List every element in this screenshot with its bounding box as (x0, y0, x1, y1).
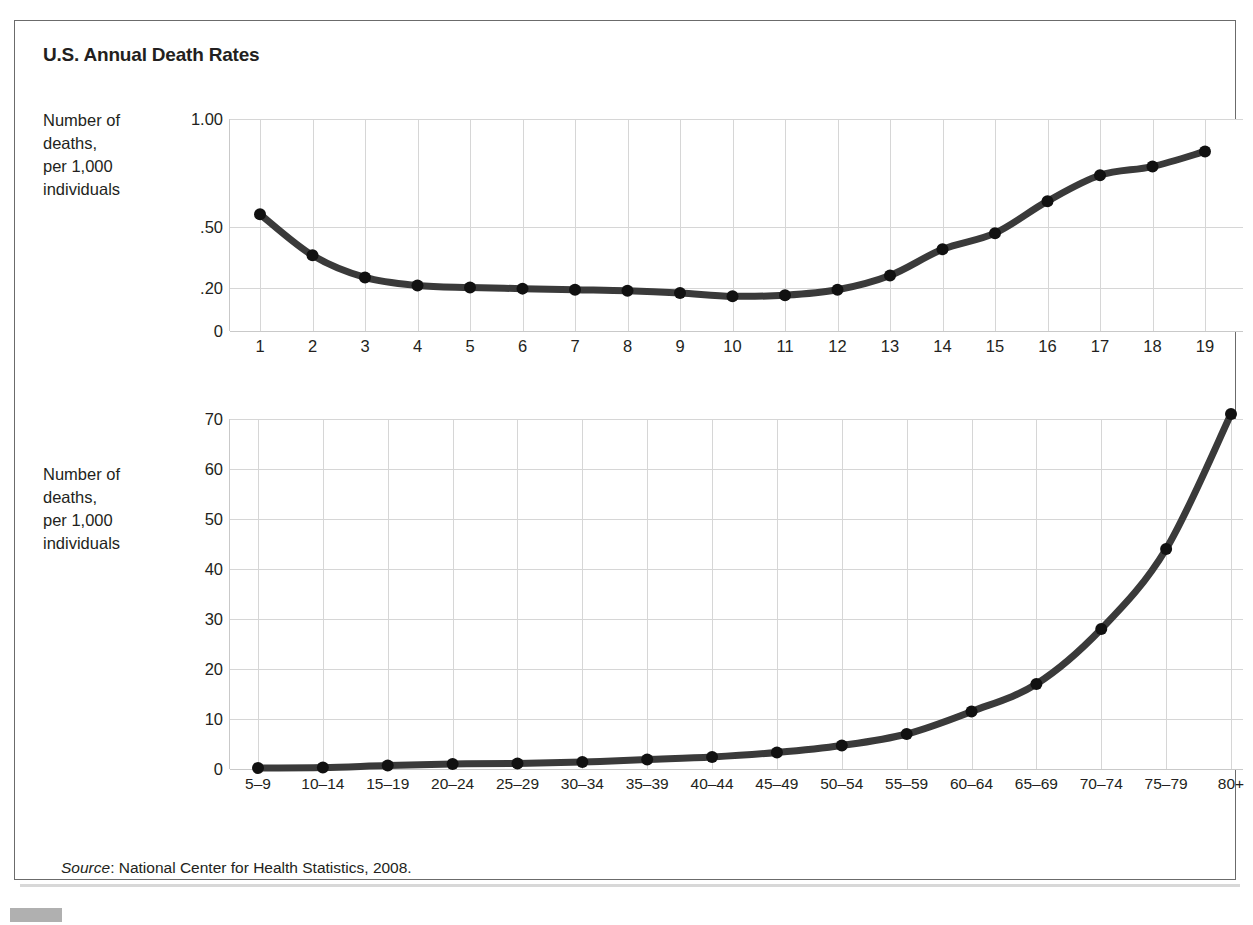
y-axis-tick-label: 60 (205, 460, 223, 479)
data-point (359, 271, 371, 283)
data-point (511, 758, 523, 770)
y-axis-tick-label: 30 (205, 610, 223, 629)
x-axis-tick-label: 8 (623, 337, 632, 356)
x-axis-tick-label: 65–69 (1015, 775, 1058, 793)
data-point (1095, 623, 1107, 635)
x-axis-tick-label: 17 (1091, 337, 1109, 356)
x-axis-tick-label: 20–24 (431, 775, 474, 793)
page-title: U.S. Annual Death Rates (43, 44, 259, 66)
x-axis-tick-label: 6 (518, 337, 527, 356)
x-axis-tick-label: 1 (255, 337, 264, 356)
source-label: Source (61, 859, 110, 876)
data-point (779, 289, 791, 301)
x-axis-tick-label: 4 (413, 337, 422, 356)
data-point (569, 284, 581, 296)
data-point (317, 762, 329, 774)
data-line (258, 414, 1231, 768)
x-axis-tick-label: 30–34 (561, 775, 604, 793)
x-axis-tick-label: 40–44 (691, 775, 734, 793)
page-corner-marker (10, 908, 62, 922)
x-axis-tick-label: 50–54 (820, 775, 863, 793)
data-point (1030, 678, 1042, 690)
y-axis-tick-label: 1.00 (191, 110, 223, 129)
y-axis-tick-label: 10 (205, 710, 223, 729)
data-point (674, 287, 686, 299)
data-point (1147, 161, 1159, 173)
y-axis-tick-label: 0 (214, 760, 223, 779)
x-axis-tick-label: 55–59 (885, 775, 928, 793)
x-axis-tick-label: 5–9 (245, 775, 271, 793)
data-point (966, 706, 978, 718)
data-point (1042, 195, 1054, 207)
y-axis-tick-label: .50 (200, 218, 223, 237)
data-point (412, 280, 424, 292)
data-point (832, 284, 844, 296)
x-axis-tick-label: 10–14 (301, 775, 344, 793)
data-point (1199, 145, 1211, 157)
bottom-chart-y-axis-caption: Number of deaths, per 1,000 individuals (43, 463, 120, 555)
data-point (576, 756, 588, 768)
x-axis-tick-label: 35–39 (626, 775, 669, 793)
x-axis-tick-label: 18 (1143, 337, 1161, 356)
x-axis-tick-label: 14 (933, 337, 951, 356)
data-point (706, 751, 718, 763)
y-axis-tick-label: 50 (205, 510, 223, 529)
x-axis-tick-label: 80+ (1218, 775, 1244, 793)
y-axis-tick-label: 20 (205, 660, 223, 679)
data-point (771, 747, 783, 759)
x-axis-tick-label: 19 (1196, 337, 1214, 356)
x-axis-tick-label: 15 (986, 337, 1004, 356)
data-point (382, 760, 394, 772)
source-note: Source: National Center for Health Stati… (61, 859, 412, 877)
series-layer (230, 119, 1243, 331)
data-point (836, 740, 848, 752)
top-chart-y-axis-caption: Number of deaths, per 1,000 individuals (43, 109, 120, 201)
data-point (641, 754, 653, 766)
bottom-chart-panel: 0102030405060705–910–1415–1920–2425–2930… (201, 405, 1245, 783)
gridline-horizontal (230, 331, 1243, 332)
x-axis-tick-label: 9 (675, 337, 684, 356)
figure-frame: U.S. Annual Death Rates Number of deaths… (14, 20, 1236, 880)
data-point (252, 762, 264, 774)
data-point (254, 208, 266, 220)
x-axis-tick-label: 16 (1038, 337, 1056, 356)
series-layer (230, 419, 1243, 769)
figure-shadow (20, 884, 1240, 887)
y-axis-tick-label: 70 (205, 410, 223, 429)
data-point (884, 269, 896, 281)
data-point (517, 283, 529, 295)
data-point (901, 728, 913, 740)
data-point (937, 243, 949, 255)
data-point (1160, 543, 1172, 555)
x-axis-tick-label: 11 (776, 337, 793, 356)
x-axis-tick-label: 3 (360, 337, 369, 356)
top-chart-panel: 1.00.50.20012345678910111213141516171819… (201, 105, 1245, 345)
data-point (727, 290, 739, 302)
x-axis-tick-label: 7 (570, 337, 579, 356)
x-axis-tick-label: 12 (828, 337, 846, 356)
data-line (260, 151, 1205, 296)
x-axis-tick-label: 75–79 (1145, 775, 1188, 793)
x-axis-tick-label: 45–49 (755, 775, 798, 793)
bottom-chart-plot-area: 0102030405060705–910–1415–1920–2425–2930… (229, 419, 1243, 769)
data-point (989, 227, 1001, 239)
source-text: : National Center for Health Statistics,… (110, 859, 412, 876)
x-axis-tick-label: 15–19 (366, 775, 409, 793)
data-point (1094, 169, 1106, 181)
x-axis-tick-label: 13 (881, 337, 899, 356)
data-point (447, 758, 459, 770)
top-chart-plot-area: 1.00.50.20012345678910111213141516171819 (229, 119, 1243, 331)
x-axis-tick-label: 60–64 (950, 775, 993, 793)
data-point (622, 285, 634, 297)
x-axis-tick-label: 5 (465, 337, 474, 356)
x-axis-tick-label: 10 (723, 337, 741, 356)
data-point (464, 282, 476, 294)
x-axis-tick-label: 25–29 (496, 775, 539, 793)
x-axis-tick-label: 2 (308, 337, 317, 356)
y-axis-tick-label: 40 (205, 560, 223, 579)
y-axis-tick-label: .20 (200, 278, 223, 297)
data-point (1225, 408, 1237, 420)
y-axis-tick-label: 0 (214, 322, 223, 341)
data-point (307, 249, 319, 261)
x-axis-tick-label: 70–74 (1080, 775, 1123, 793)
